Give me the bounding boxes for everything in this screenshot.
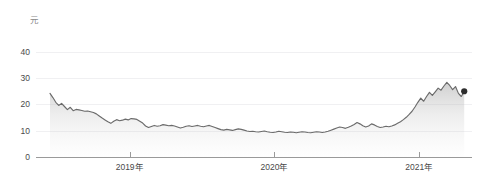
y-axis-tick-label: 30	[21, 73, 31, 83]
chart-canvas: 010203040 元 2019年2020年2021年	[0, 0, 480, 189]
y-axis-unit-label: 元	[30, 15, 39, 25]
y-axis-tick-labels: 010203040	[21, 47, 31, 162]
x-axis-tick-label: 2020年	[261, 162, 289, 172]
y-axis-tick-label: 0	[25, 152, 30, 162]
x-axis-tick-label: 2021年	[405, 162, 433, 172]
stock-price-line-chart: 010203040 元 2019年2020年2021年	[0, 0, 480, 189]
x-axis-tick-labels: 2019年2020年2021年	[116, 162, 434, 172]
series-endpoint-marker	[461, 88, 467, 94]
y-axis-tick-label: 10	[21, 126, 31, 136]
y-axis-tick-label: 40	[21, 47, 31, 57]
series-area-fill	[50, 82, 464, 157]
y-axis-tick-label: 20	[21, 99, 31, 109]
x-axis-tick-label: 2019年	[116, 162, 144, 172]
